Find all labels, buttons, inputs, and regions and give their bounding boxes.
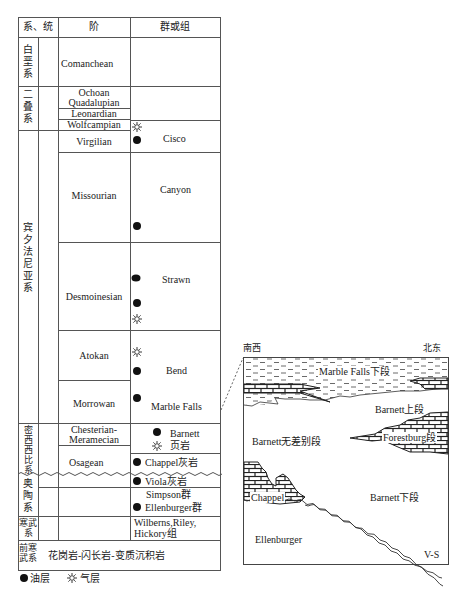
label-chappel: Chappel [250,492,285,503]
cross-section [0,0,466,593]
direction-sw: 南西 [243,343,261,354]
label-barnett-undiff: Barnett无差别段 [252,436,321,447]
direction-ne: 北东 [423,343,441,354]
label-marble-falls-lower: Marble Falls下段 [318,366,391,377]
label-vs: V-S [424,549,439,560]
label-forestburg: Forestburg段 [382,432,437,443]
label-ellenburger: Ellenburger [255,534,302,545]
label-barnett-lower: Barnett下段 [370,492,419,503]
label-barnett-upper: Barnett上段 [375,404,424,415]
